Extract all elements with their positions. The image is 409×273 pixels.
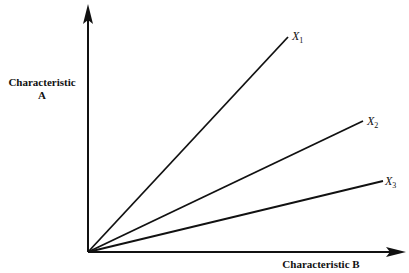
label-x3: X3 (384, 174, 396, 190)
label-x1: X1 (291, 29, 303, 45)
y-axis-label-line2: A (38, 89, 46, 101)
line-x3 (88, 181, 383, 252)
x-axis-label: Characteristic B (282, 258, 360, 270)
diagram-canvas: X1 X2 X3 Characteristic A Characteristic… (0, 0, 409, 273)
line-x2 (88, 121, 363, 252)
y-axis-label-line1: Characteristic (8, 76, 75, 88)
line-x1 (88, 37, 288, 252)
label-x2: X2 (366, 114, 378, 130)
